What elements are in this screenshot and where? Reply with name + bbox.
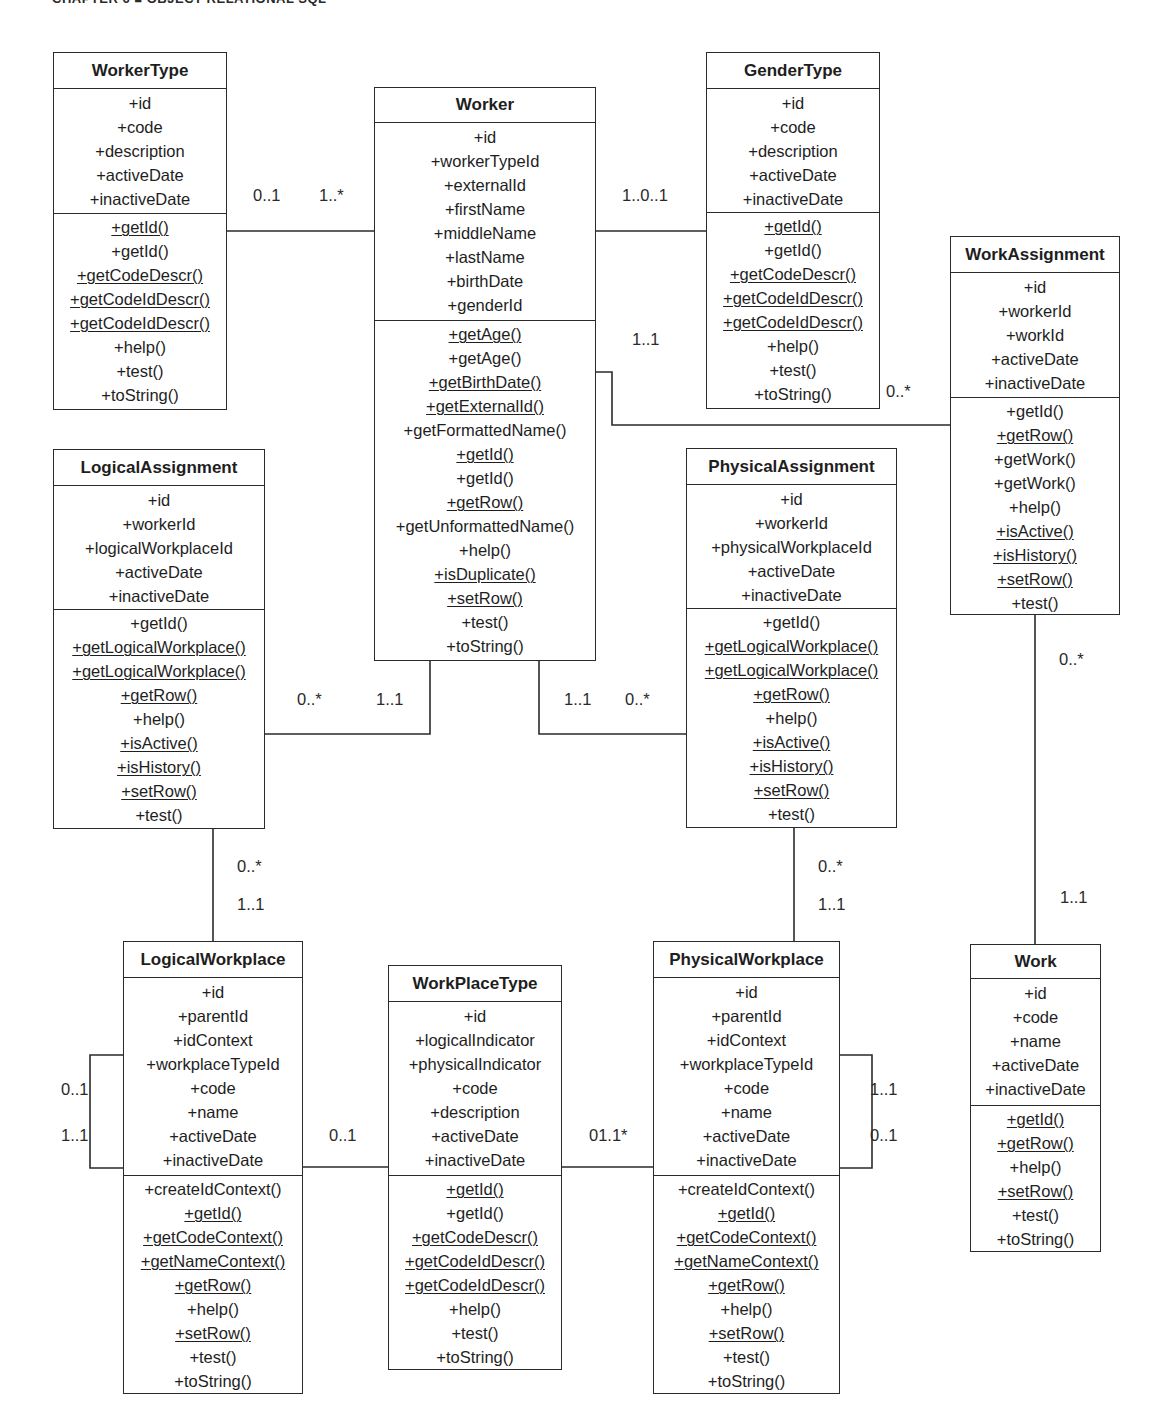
method-row: +test(): [971, 1203, 1100, 1227]
mult-workassignment-work-from: 0..*: [1059, 650, 1084, 669]
method-row: +help(): [951, 495, 1119, 519]
attribute-row: +physicalIndicator: [389, 1052, 561, 1076]
method-row: +getWork(): [951, 471, 1119, 495]
attribute-row: +idContext: [654, 1028, 839, 1052]
class-logicalassignment[interactable]: LogicalAssignment+id+workerId+logicalWor…: [53, 449, 265, 829]
static-method-row: +getCodeContext(): [654, 1225, 839, 1249]
work-methods: +getId()+getRow()+help()+setRow()+test()…: [971, 1106, 1100, 1251]
class-workplacetype[interactable]: WorkPlaceType+id+logicalIndicator+physic…: [388, 965, 562, 1370]
attribute-row: +activeDate: [707, 163, 879, 187]
method-row: +getFormattedName(): [375, 418, 595, 442]
logicalassignment-attributes: +id+workerId+logicalWorkplaceId+activeDa…: [54, 486, 264, 610]
attribute-row: +activeDate: [687, 559, 896, 583]
logicalassignment-class-name: LogicalAssignment: [54, 450, 264, 486]
attribute-row: +middleName: [375, 221, 595, 245]
method-row: +getId(): [389, 1201, 561, 1225]
attribute-row: +workerId: [951, 299, 1119, 323]
method-row: +getId(): [687, 610, 896, 634]
method-row: +test(): [375, 610, 595, 634]
method-row: +help(): [971, 1155, 1100, 1179]
class-physicalassignment[interactable]: PhysicalAssignment+id+workerId+physicalW…: [686, 448, 897, 828]
static-method-row: +getId(): [971, 1107, 1100, 1131]
static-method-row: +getNameContext(): [654, 1249, 839, 1273]
static-method-row: +isHistory(): [951, 543, 1119, 567]
static-method-row: +getId(): [124, 1201, 302, 1225]
method-row: +help(): [375, 538, 595, 562]
attribute-row: +idContext: [124, 1028, 302, 1052]
attribute-row: +name: [124, 1100, 302, 1124]
attribute-row: +inactiveDate: [687, 583, 896, 607]
attribute-row: +externalId: [375, 173, 595, 197]
attribute-row: +workerTypeId: [375, 149, 595, 173]
class-worker[interactable]: Worker+id+workerTypeId+externalId+firstN…: [374, 87, 596, 661]
static-method-row: +getId(): [389, 1177, 561, 1201]
mult-physicalworkplace-self-from: 1..1: [870, 1080, 898, 1099]
static-method-row: +isHistory(): [54, 755, 264, 779]
attribute-row: +code: [654, 1076, 839, 1100]
class-workassignment[interactable]: WorkAssignment+id+workerId+workId+active…: [950, 236, 1120, 615]
mult-workertype-worker-from: 0..1: [253, 186, 281, 205]
attribute-row: +code: [124, 1076, 302, 1100]
attribute-row: +activeDate: [654, 1124, 839, 1148]
method-row: +createIdContext(): [124, 1177, 302, 1201]
mult-logicalassignment-worker-from: 0..*: [297, 690, 322, 709]
attribute-row: +workplaceTypeId: [124, 1052, 302, 1076]
mult-logicalworkplace-self-from: 0..1: [61, 1080, 89, 1099]
static-method-row: +isActive(): [54, 731, 264, 755]
method-row: +createIdContext(): [654, 1177, 839, 1201]
method-row: +help(): [687, 706, 896, 730]
method-row: +help(): [54, 707, 264, 731]
work-class-name: Work: [971, 945, 1100, 979]
method-row: +toString(): [375, 634, 595, 658]
static-method-row: +getId(): [707, 214, 879, 238]
static-method-row: +getLogicalWorkplace(): [54, 635, 264, 659]
line-logicalworkplace-self: [90, 1055, 123, 1168]
physicalworkplace-class-name: PhysicalWorkplace: [654, 942, 839, 978]
class-gendertype[interactable]: GenderType+id+code+description+activeDat…: [706, 52, 880, 409]
attribute-row: +id: [951, 275, 1119, 299]
workassignment-attributes: +id+workerId+workId+activeDate+inactiveD…: [951, 273, 1119, 398]
physicalworkplace-methods: +createIdContext()+getId()+getCodeContex…: [654, 1176, 839, 1393]
workplacetype-class-name: WorkPlaceType: [389, 966, 561, 1002]
static-method-row: +setRow(): [687, 778, 896, 802]
static-method-row: +setRow(): [54, 779, 264, 803]
static-method-row: +setRow(): [654, 1321, 839, 1345]
method-row: +test(): [389, 1321, 561, 1345]
attribute-row: +physicalWorkplaceId: [687, 535, 896, 559]
static-method-row: +setRow(): [124, 1321, 302, 1345]
static-method-row: +getCodeIdDescr(): [707, 286, 879, 310]
attribute-row: +inactiveDate: [389, 1148, 561, 1172]
static-method-row: +getRow(): [375, 490, 595, 514]
worker-class-name: Worker: [375, 88, 595, 123]
static-method-row: +setRow(): [375, 586, 595, 610]
attribute-row: +inactiveDate: [124, 1148, 302, 1172]
attribute-row: +code: [389, 1076, 561, 1100]
class-physicalworkplace[interactable]: PhysicalWorkplace+id+parentId+idContext+…: [653, 941, 840, 1394]
line-worker-physicalassignment: [539, 661, 686, 734]
attribute-row: +name: [654, 1100, 839, 1124]
attribute-row: +activeDate: [389, 1124, 561, 1148]
attribute-row: +id: [54, 91, 226, 115]
mult-logicalassignment-logicalworkplace-to: 1..1: [237, 895, 265, 914]
workassignment-class-name: WorkAssignment: [951, 237, 1119, 273]
class-logicalworkplace[interactable]: LogicalWorkplace+id+parentId+idContext+w…: [123, 941, 303, 1394]
method-row: +test(): [54, 803, 264, 827]
class-workertype[interactable]: WorkerType+id+code+description+activeDat…: [53, 52, 227, 410]
mult-worker-workassignment-from: 1..1: [632, 330, 660, 349]
logicalworkplace-methods: +createIdContext()+getId()+getCodeContex…: [124, 1176, 302, 1393]
attribute-row: +parentId: [124, 1004, 302, 1028]
logicalworkplace-attributes: +id+parentId+idContext+workplaceTypeId+c…: [124, 978, 302, 1176]
method-row: +test(): [124, 1345, 302, 1369]
class-work[interactable]: Work+id+code+name+activeDate+inactiveDat…: [970, 944, 1101, 1252]
static-method-row: +isHistory(): [687, 754, 896, 778]
attribute-row: +workId: [951, 323, 1119, 347]
method-row: +getId(): [54, 611, 264, 635]
method-row: +test(): [707, 358, 879, 382]
gendertype-methods: +getId()+getId()+getCodeDescr()+getCodeI…: [707, 213, 879, 406]
static-method-row: +getCodeIdDescr(): [54, 287, 226, 311]
attribute-row: +description: [707, 139, 879, 163]
mult-logicalassignment-logicalworkplace-from: 0..*: [237, 857, 262, 876]
mult-worker-physicalassignment-from: 1..1: [564, 690, 592, 709]
attribute-row: +name: [971, 1029, 1100, 1053]
attribute-row: +id: [389, 1004, 561, 1028]
